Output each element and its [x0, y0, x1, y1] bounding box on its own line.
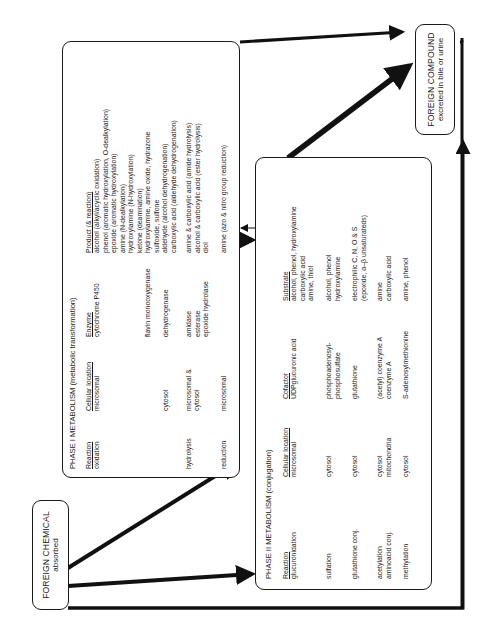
- direct-excretion-path: [0, 0, 479, 638]
- metabolism-diagram: FOREIGN CHEMICAL absorbed FOREIGN COMPOU…: [0, 0, 479, 638]
